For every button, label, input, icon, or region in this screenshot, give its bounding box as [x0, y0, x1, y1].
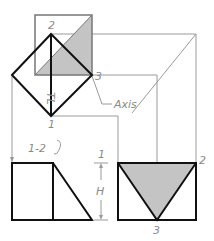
label-dim-h: H	[96, 185, 104, 198]
label-axis: Axis	[113, 98, 137, 111]
label-dim-1: 1	[98, 148, 105, 161]
front-view-rect	[12, 163, 53, 220]
label-point-3-aux: 3	[153, 224, 160, 237]
label-point-2-aux: 2	[199, 154, 206, 167]
label-point-3-top: 3	[95, 70, 102, 83]
shaded-triangle-aux	[118, 163, 196, 220]
label-point-2-top: 2	[48, 19, 55, 32]
auxiliary-view-diagram: 2 3 1 TL Axis 1-2 1 H 2 3	[0, 0, 214, 241]
label-1-2: 1-2	[28, 142, 46, 155]
label-true-length: TL	[44, 92, 57, 105]
label-point-1-top: 1	[48, 118, 55, 131]
front-view-triangle	[53, 163, 92, 220]
